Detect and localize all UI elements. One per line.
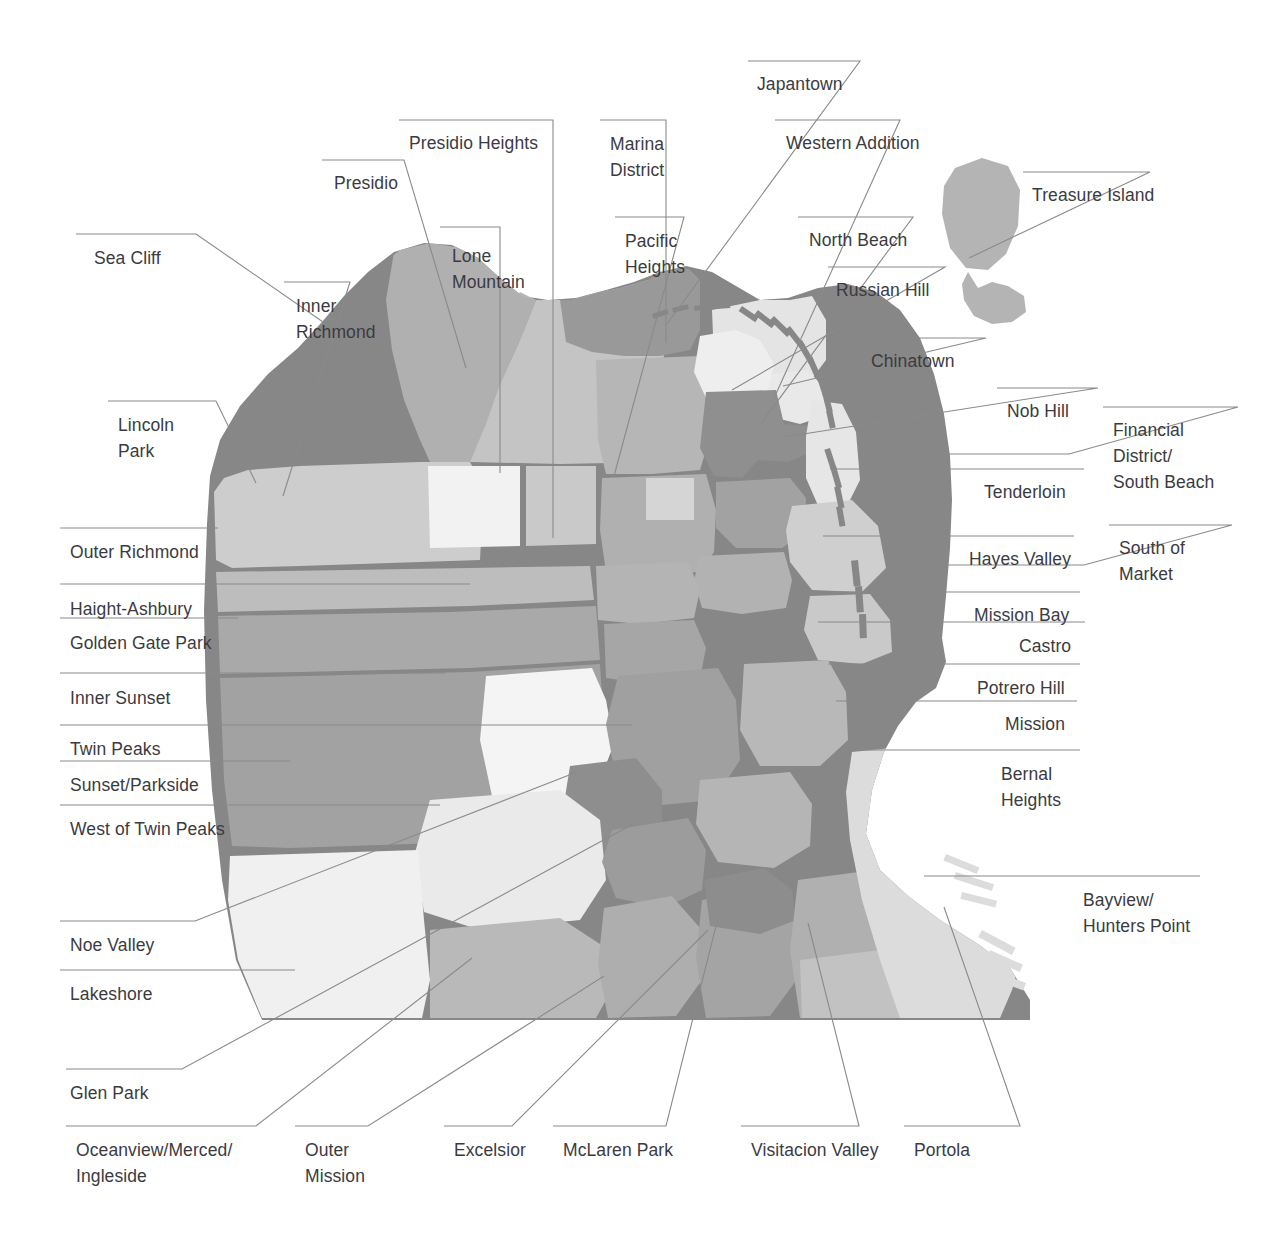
- yerba-buena-island-shape: [962, 272, 1026, 324]
- map-label-tenderloin[interactable]: Tenderloin: [984, 479, 1066, 505]
- map-label-glen-park[interactable]: Glen Park: [70, 1080, 149, 1106]
- map-label-western-addition[interactable]: Western Addition: [786, 130, 920, 156]
- map-label-hayes-valley[interactable]: Hayes Valley: [969, 546, 1071, 572]
- potrero-hill-area: [740, 660, 848, 766]
- leader-line-japantown: [667, 61, 860, 324]
- map-label-mission[interactable]: Mission: [1005, 711, 1065, 737]
- japantown-area: [646, 478, 694, 520]
- map-label-mission-bay[interactable]: Mission Bay: [974, 602, 1069, 628]
- pacific-heights-area: [596, 356, 712, 474]
- map-label-nob-hill[interactable]: Nob Hill: [1007, 398, 1069, 424]
- west-of-twin-peaks-area: [414, 790, 606, 930]
- map-label-noe-valley[interactable]: Noe Valley: [70, 932, 154, 958]
- lakeshore-area: [228, 850, 430, 1018]
- map-label-inner-richmond[interactable]: Inner Richmond: [296, 293, 376, 345]
- map-label-golden-gate-park[interactable]: Golden Gate Park: [70, 630, 212, 656]
- lone-mountain-area: [526, 466, 596, 546]
- map-label-bayview-hunters-point[interactable]: Bayview/ Hunters Point: [1083, 887, 1190, 939]
- map-label-outer-mission[interactable]: Outer Mission: [305, 1137, 365, 1189]
- map-label-portola[interactable]: Portola: [914, 1137, 970, 1163]
- map-label-visitacion-valley[interactable]: Visitacion Valley: [751, 1137, 879, 1163]
- hayes-valley-area: [694, 552, 792, 614]
- map-label-south-of-market[interactable]: South of Market: [1119, 535, 1185, 587]
- map-label-sunset-parkside[interactable]: Sunset/Parkside: [70, 772, 199, 798]
- map-label-bernal-heights[interactable]: Bernal Heights: [1001, 761, 1061, 813]
- map-label-sea-cliff[interactable]: Sea Cliff: [94, 245, 161, 271]
- map-label-russian-hill[interactable]: Russian Hill: [836, 277, 930, 303]
- map-label-excelsior[interactable]: Excelsior: [454, 1137, 526, 1163]
- map-label-potrero-hill[interactable]: Potrero Hill: [977, 675, 1065, 701]
- map-label-lakeshore[interactable]: Lakeshore: [70, 981, 153, 1007]
- treasure-island-shape: [942, 158, 1020, 270]
- haight-ashbury-area: [596, 562, 700, 624]
- map-label-twin-peaks[interactable]: Twin Peaks: [70, 736, 160, 762]
- map-label-oceanview-merced-ingleside[interactable]: Oceanview/Merced/ Ingleside: [76, 1137, 232, 1189]
- map-label-haight-ashbury[interactable]: Haight-Ashbury: [70, 596, 192, 622]
- map-label-castro[interactable]: Castro: [1019, 633, 1071, 659]
- map-label-north-beach[interactable]: North Beach: [809, 227, 907, 253]
- map-label-presidio-heights[interactable]: Presidio Heights: [409, 130, 538, 156]
- map-label-marina-district[interactable]: Marina District: [610, 131, 664, 183]
- map-label-west-of-twin-peaks[interactable]: West of Twin Peaks: [70, 816, 225, 842]
- outer-mission-area: [598, 896, 702, 1018]
- map-label-treasure-island[interactable]: Treasure Island: [1032, 182, 1154, 208]
- bernal-heights-area: [696, 772, 812, 868]
- map-label-financial-district-south-beach[interactable]: Financial District/ South Beach: [1113, 417, 1214, 495]
- map-label-chinatown[interactable]: Chinatown: [871, 348, 955, 374]
- map-label-lone-mountain[interactable]: Lone Mountain: [452, 243, 525, 295]
- map-label-inner-sunset[interactable]: Inner Sunset: [70, 685, 170, 711]
- map-label-pacific-heights[interactable]: Pacific Heights: [625, 228, 685, 280]
- glen-park-area: [602, 818, 706, 908]
- map-label-lincoln-park[interactable]: Lincoln Park: [118, 412, 174, 464]
- map-label-mclaren-park[interactable]: McLaren Park: [563, 1137, 673, 1163]
- oceanview-area: [430, 918, 606, 1018]
- presidio-heights-area: [428, 466, 520, 548]
- map-label-outer-richmond[interactable]: Outer Richmond: [70, 539, 199, 565]
- map-label-japantown[interactable]: Japantown: [757, 71, 843, 97]
- sf-neighborhood-map-figure: Sea CliffPresidioPresidio HeightsLone Mo…: [0, 0, 1278, 1251]
- map-label-presidio[interactable]: Presidio: [334, 170, 398, 196]
